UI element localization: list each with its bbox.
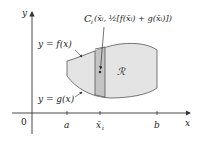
x-axis-label: x xyxy=(185,118,190,128)
centroid-point xyxy=(99,71,102,74)
lower-curve-label: y = g(x) xyxy=(37,94,75,104)
tick-label-b: b xyxy=(154,120,160,130)
tick-label-xi-sub: i xyxy=(102,124,104,131)
tick-label-a: a xyxy=(64,120,69,130)
origin-label: 0 xyxy=(21,117,27,127)
region-r xyxy=(67,43,157,98)
upper-curve-pointer xyxy=(75,50,82,57)
centroid-label-coords: (x̄ᵢ, ½[f(x̄ᵢ) + g(x̄ᵢ)]) xyxy=(94,13,172,23)
tick-label-xi: x̄ xyxy=(96,120,101,130)
upper-curve-label: y = f(x) xyxy=(37,39,72,49)
y-axis-label: y xyxy=(21,8,28,18)
centroid-diagram: y x 0 a x̄ i b y = f(x) y = g(x) ℛ C i (… xyxy=(0,0,200,142)
lower-curve-pointer xyxy=(75,92,82,97)
region-label: ℛ xyxy=(117,66,126,77)
centroid-label-c-sub: i xyxy=(91,18,93,25)
